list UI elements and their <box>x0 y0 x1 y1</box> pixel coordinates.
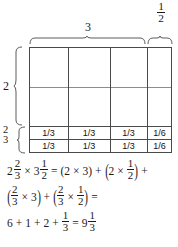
mixed-number-result: 9 1 3 <box>82 211 96 234</box>
term-addend: 2 <box>44 217 50 229</box>
cell-value: 1/6 <box>147 126 172 139</box>
cell-value: 1/6 <box>147 139 172 152</box>
fraction-numerator: 1 <box>157 1 165 13</box>
operator-plus: + <box>44 191 51 203</box>
fraction-two-thirds: 2 3 <box>57 184 64 207</box>
operator-times: × <box>117 165 124 177</box>
model-grid: 1/3 1/3 1/3 1/6 1/3 1/3 1/3 1/6 <box>29 47 172 153</box>
operator-times: × <box>67 191 74 203</box>
table-row: 1/3 1/3 1/3 1/6 <box>29 126 172 139</box>
fraction-denominator: 3 <box>62 221 69 233</box>
brace-left-tall <box>14 46 23 126</box>
term-factor: 2 <box>64 165 70 177</box>
label-left-two: 2 <box>3 80 9 92</box>
fraction-numerator: 2 <box>11 184 18 195</box>
equation-line-3: 6 + 1 + 2 + 1 3 = 9 1 3 <box>7 210 178 236</box>
operator-plus: + <box>141 165 148 177</box>
fraction-numerator: 1 <box>88 210 95 221</box>
grid-line-h-top <box>29 47 172 48</box>
paren-close: ) <box>85 192 89 203</box>
operator-equals: = <box>72 217 79 229</box>
operator-plus: + <box>16 217 23 229</box>
mixed-whole: 2 <box>7 165 13 177</box>
fraction-denominator: 3 <box>2 135 9 146</box>
fraction-numerator: 1 <box>40 158 47 169</box>
fraction-denominator: 2 <box>157 12 165 25</box>
operator-plus: + <box>34 217 41 229</box>
fraction-denominator: 3 <box>11 195 18 207</box>
fraction-numerator: 2 <box>57 184 64 195</box>
fraction-denominator: 3 <box>88 221 95 233</box>
term-addend: 6 <box>7 217 13 229</box>
fraction-two-thirds: 2 3 <box>2 125 9 146</box>
paren-close: ) <box>37 192 41 203</box>
fraction-denominator: 2 <box>127 169 134 181</box>
operator-times: × <box>73 165 80 177</box>
fraction-numerator: 2 <box>14 158 21 169</box>
equation-line-1: 2 2 3 × 3 1 2 = ( 2 × 3 ) + ( 2 <box>7 158 178 184</box>
term-addend: 1 <box>25 217 31 229</box>
fraction-denominator: 3 <box>57 195 64 207</box>
cell-value: 1/3 <box>29 139 68 152</box>
mixed-number-three-and-one-half: 3 1 2 <box>34 159 48 182</box>
fraction-numerator: 1 <box>62 210 69 221</box>
mixed-number-two-and-two-thirds: 2 2 3 <box>7 159 21 182</box>
term-factor: 3 <box>31 191 37 203</box>
mixed-whole: 9 <box>82 217 88 229</box>
operator-equals: = <box>51 165 58 177</box>
fraction-one-half: 1 2 <box>157 1 165 25</box>
cell-value: 1/3 <box>29 126 68 139</box>
fraction-one-half: 1 2 <box>127 158 134 181</box>
mixed-whole: 3 <box>34 165 40 177</box>
term-factor: 2 <box>109 165 115 177</box>
operator-times: × <box>21 191 28 203</box>
operator-plus: + <box>52 217 59 229</box>
label-left-two-thirds: 2 3 <box>2 126 9 147</box>
cell-value: 1/3 <box>68 139 110 152</box>
grid-line-h-bottom <box>29 152 172 153</box>
brace-top-wide <box>29 36 146 45</box>
cell-value: 1/3 <box>110 139 147 152</box>
operator-equals: = <box>91 191 98 203</box>
brace-top-narrow <box>147 36 173 45</box>
cell-value: 1/3 <box>68 126 110 139</box>
paren-close: ) <box>88 165 92 177</box>
area-model-diagram: 1 2 3 2 2 3 <box>0 0 178 247</box>
paren-close: ) <box>134 166 138 177</box>
table-row: 1/3 1/3 1/3 1/6 <box>29 139 172 152</box>
equation-line-2: ( 2 3 × 3 ) + ( 2 3 × 1 2 ) = <box>7 184 178 210</box>
label-top-three: 3 <box>29 20 147 35</box>
fraction-two-thirds: 2 3 <box>11 184 18 207</box>
fraction-denominator: 3 <box>14 169 21 181</box>
fraction-denominator: 2 <box>40 169 47 181</box>
fraction-numerator: 1 <box>127 158 134 169</box>
operator-times: × <box>24 165 31 177</box>
fraction-one-third: 1 3 <box>62 210 69 233</box>
grid-line-h-mid <box>29 87 172 88</box>
label-top-one-half: 1 2 <box>150 2 172 26</box>
equation-block: 2 2 3 × 3 1 2 = ( 2 × 3 ) + ( 2 <box>7 158 178 236</box>
operator-plus: + <box>95 165 102 177</box>
cell-value: 1/3 <box>110 126 147 139</box>
brace-left-short <box>17 126 26 154</box>
paren-open: ( <box>105 166 109 177</box>
